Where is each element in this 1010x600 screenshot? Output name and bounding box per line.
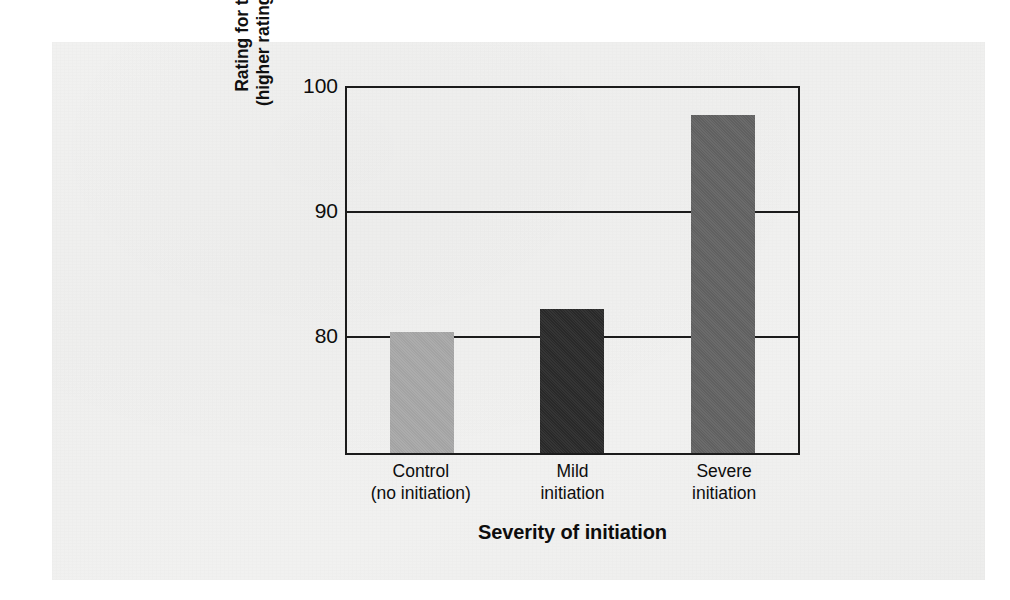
x-tick-mild-line-1: Mild <box>497 461 647 483</box>
bar-mild[interactable] <box>540 309 604 453</box>
y-tick-label-80: 80 <box>294 324 338 348</box>
x-tick-severe-line-2: initiation <box>649 483 799 505</box>
x-axis-tick-labels: Control (no initiation) Mild initiation … <box>345 461 800 505</box>
x-tick-severe: Severe initiation <box>649 461 799 505</box>
plot-area <box>345 86 800 455</box>
bar-chart-figure: Rating for the discussion group (higher … <box>0 0 1010 600</box>
x-tick-control-line-1: Control <box>346 461 496 483</box>
x-tick-control-line-2: (no initiation) <box>346 483 496 505</box>
bar-mild-texture <box>540 309 604 453</box>
bar-control-texture <box>390 332 454 453</box>
x-tick-mild: Mild initiation <box>497 461 647 505</box>
bar-control[interactable] <box>390 332 454 453</box>
bar-series <box>347 88 798 453</box>
y-axis-title-line-2: (higher rating means greater liking) <box>253 0 274 106</box>
bar-severe[interactable] <box>691 115 755 453</box>
y-axis-title: Rating for the discussion group (higher … <box>218 0 288 146</box>
y-tick-label-90: 90 <box>294 199 338 223</box>
y-tick-label-100: 100 <box>294 74 338 98</box>
y-axis-title-line-1: Rating for the discussion group <box>232 0 253 92</box>
y-axis-tick-labels: 100 90 80 <box>288 0 338 600</box>
x-tick-mild-line-2: initiation <box>497 483 647 505</box>
x-tick-control: Control (no initiation) <box>346 461 496 505</box>
bar-severe-texture <box>691 115 755 453</box>
x-axis-title: Severity of initiation <box>345 521 800 544</box>
x-tick-severe-line-1: Severe <box>649 461 799 483</box>
